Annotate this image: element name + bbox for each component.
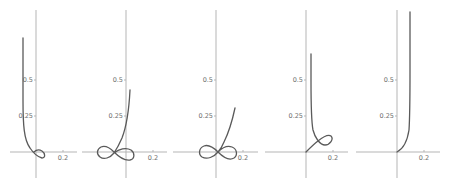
- y-tick-label-05: 0.5: [384, 76, 394, 84]
- curve-2: [97, 90, 133, 160]
- y-tick-label-025: 0.25: [109, 112, 123, 120]
- panel-4: 0.5 0.25 0.2: [265, 10, 348, 178]
- curve-4: [306, 54, 332, 152]
- y-tick-label-025: 0.25: [380, 112, 394, 120]
- y-tick-label-05: 0.5: [23, 76, 33, 84]
- x-tick-label-02: 0.2: [58, 154, 68, 162]
- y-tick-label-025: 0.25: [19, 112, 33, 120]
- y-tick-label-05: 0.5: [113, 76, 123, 84]
- panel-3: 0.5 0.25 0.2: [173, 10, 258, 178]
- y-tick-label-05: 0.5: [203, 76, 213, 84]
- figure: 0.5 0.25 0.2 0.5 0.25 0.2 0.5 0.25 0.2 0…: [0, 0, 449, 189]
- x-tick-label-02: 0.2: [328, 154, 338, 162]
- panel-5: 0.5 0.25 0.2: [356, 10, 440, 178]
- x-tick-label-02: 0.2: [419, 154, 429, 162]
- curve-5: [397, 12, 410, 152]
- x-tick-label-02: 0.2: [148, 154, 158, 162]
- y-tick-label-05: 0.5: [293, 76, 303, 84]
- x-tick-label-02: 0.2: [238, 154, 248, 162]
- y-tick-label-025: 0.25: [289, 112, 303, 120]
- curve-1: [23, 38, 45, 158]
- y-tick-label-025: 0.25: [199, 112, 213, 120]
- panel-1: 0.5 0.25 0.2: [10, 10, 77, 178]
- panel-2: 0.5 0.25 0.2: [82, 10, 167, 178]
